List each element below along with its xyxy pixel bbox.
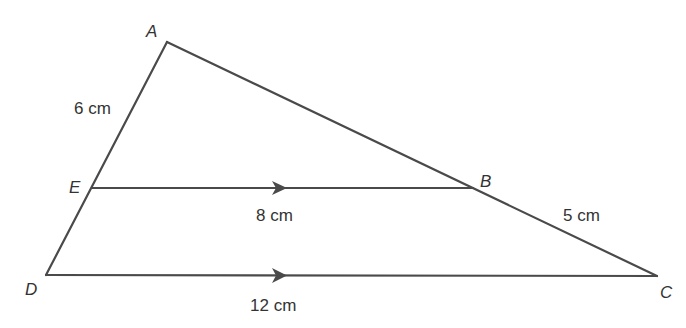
vertex-label-c: C xyxy=(660,283,672,303)
segment-dc xyxy=(46,275,657,276)
segment-ac xyxy=(167,42,657,276)
measure-eb: 8 cm xyxy=(256,206,293,226)
vertex-label-a: A xyxy=(146,22,157,42)
vertex-label-e: E xyxy=(69,178,80,198)
vertex-label-d: D xyxy=(25,280,37,300)
triangle-diagram xyxy=(0,0,686,328)
measure-bc: 5 cm xyxy=(563,206,600,226)
vertex-label-b: B xyxy=(480,172,491,192)
segment-ad xyxy=(46,42,167,275)
measure-dc: 12 cm xyxy=(250,296,296,316)
measure-ae: 6 cm xyxy=(74,99,111,119)
